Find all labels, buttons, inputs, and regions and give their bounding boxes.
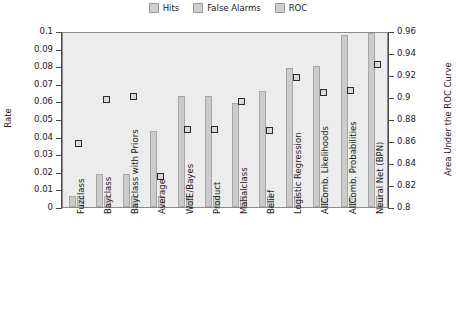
roc-marker [266, 127, 273, 134]
x-axis-tick-label: Bayclass [104, 177, 113, 214]
roc-marker [75, 140, 82, 147]
y-axis-right-tick-label: 0.84 [397, 159, 431, 168]
y-axis-right-tick-label: 0.8 [397, 203, 431, 212]
roc-marker [238, 98, 245, 105]
bar-hits [232, 103, 239, 207]
roc-marker [211, 126, 218, 133]
y-axis-left-tick [56, 85, 62, 86]
y-axis-right-tick [388, 98, 394, 99]
y-axis-left-tick [56, 155, 62, 156]
y-axis-right-tick-label: 0.9 [397, 93, 431, 102]
roc-marker [320, 89, 327, 96]
y-axis-left-tick-label: 0.02 [19, 168, 53, 177]
y-axis-left-tick-label: 0 [19, 203, 53, 212]
bar-hits [341, 35, 348, 207]
roc-marker [130, 93, 137, 100]
y-axis-left-tick [56, 173, 62, 174]
y-axis-left-tick-label: 0.06 [19, 97, 53, 106]
bar-hits [205, 96, 212, 207]
roc-marker [374, 61, 381, 68]
x-axis-tick-label: Mahalclass [240, 167, 249, 214]
y-axis-left-tick [56, 50, 62, 51]
y-axis-right-tick [388, 164, 394, 165]
y-axis-right-tick [388, 76, 394, 77]
y-axis-left-tick-label: 0.03 [19, 150, 53, 159]
y-axis-right-tick-label: 0.82 [397, 181, 431, 190]
y-axis-right-tick-label: 0.92 [397, 71, 431, 80]
y-axis-left-tick [56, 190, 62, 191]
legend-label-hits: Hits [163, 4, 180, 13]
y-axis-left-title: Rate [3, 94, 13, 142]
y-axis-right-tick [388, 32, 394, 33]
legend-swatch-roc [275, 3, 285, 13]
y-axis-left-tick [56, 32, 62, 33]
bar-hits [69, 196, 76, 207]
x-axis-tick-label: WofE/Bayes [186, 164, 195, 214]
y-axis-left-tick [56, 120, 62, 121]
y-axis-right-tick [388, 186, 394, 187]
y-axis-left-tick-label: 0.09 [19, 45, 53, 54]
y-axis-right-tick-label: 0.88 [397, 115, 431, 124]
legend-swatch-false-alarms [193, 3, 203, 13]
y-axis-right-tick-label: 0.94 [397, 49, 431, 58]
roc-hits-false-alarms-chart: Hits False Alarms ROC Rate Area Under th… [0, 0, 456, 318]
y-axis-left-tick [56, 138, 62, 139]
y-axis-left-tick [56, 208, 62, 209]
x-axis-tick-label: Average [158, 179, 167, 214]
y-axis-right-tick [388, 208, 394, 209]
y-axis-left-tick [56, 67, 62, 68]
roc-marker [293, 74, 300, 81]
roc-marker [103, 96, 110, 103]
legend-item-roc: ROC [275, 3, 308, 13]
chart-legend: Hits False Alarms ROC [0, 3, 456, 13]
y-axis-left-tick-label: 0.04 [19, 133, 53, 142]
x-axis-tick-label: Belief [267, 190, 276, 214]
y-axis-left-tick-label: 0.1 [19, 27, 53, 36]
legend-label-false-alarms: False Alarms [207, 4, 260, 13]
roc-marker [184, 126, 191, 133]
y-axis-left-tick [56, 102, 62, 103]
x-axis-tick-label: Fuzclass [77, 179, 86, 214]
y-axis-right-tick [388, 142, 394, 143]
bar-hits [178, 96, 185, 207]
y-axis-right-title: Area Under the ROC Curve [443, 66, 453, 176]
x-axis-tick-label: Neural Net (BPN) [376, 142, 385, 214]
legend-label-roc: ROC [289, 4, 308, 13]
x-axis-tick-label: AllComb. Likelihoods [321, 126, 330, 214]
y-axis-right-tick-label: 0.86 [397, 137, 431, 146]
x-axis-tick-label: Bayclass with Priors [131, 129, 140, 214]
x-axis-tick-label: Logistic Regression [294, 132, 303, 214]
bar-hits [368, 33, 375, 207]
roc-marker [347, 87, 354, 94]
y-axis-left-tick-label: 0.01 [19, 185, 53, 194]
legend-swatch-hits [149, 3, 159, 13]
y-axis-left-tick-label: 0.08 [19, 62, 53, 71]
x-axis-tick-label: Product [213, 182, 222, 214]
y-axis-right-tick [388, 54, 394, 55]
legend-item-hits: Hits [149, 3, 180, 13]
legend-item-false-alarms: False Alarms [193, 3, 260, 13]
y-axis-left-tick-label: 0.05 [19, 115, 53, 124]
y-axis-right-tick [388, 120, 394, 121]
y-axis-left-tick-label: 0.07 [19, 80, 53, 89]
y-axis-right-tick-label: 0.96 [397, 27, 431, 36]
x-axis-tick-label: AllComb. Probabilities [349, 121, 358, 214]
